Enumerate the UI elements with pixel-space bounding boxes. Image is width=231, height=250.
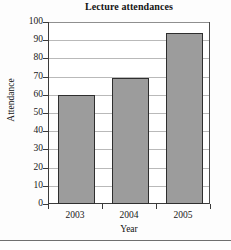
gridline (49, 22, 209, 23)
plot-area (48, 22, 210, 204)
bar-2005 (166, 33, 203, 204)
x-axis-tick-mark (210, 204, 211, 209)
bar-2003 (58, 95, 95, 204)
x-axis-title: Year (48, 224, 210, 234)
y-axis-tick-label: 100 (17, 17, 43, 27)
x-axis-tick-mark (156, 204, 157, 209)
y-axis-tick-label: 80 (17, 53, 43, 63)
x-axis-tick-mark (48, 204, 49, 209)
y-axis-tick-label: 10 (17, 181, 43, 191)
x-axis-tick-label: 2003 (52, 210, 98, 221)
y-axis-tick-label: 40 (17, 126, 43, 136)
x-axis-tick-label: 2004 (106, 210, 152, 221)
y-axis-tick-label: 50 (17, 108, 43, 118)
chart-figure: Lecture attendances Attendance 010203040… (0, 0, 231, 250)
x-axis-tick-label: 2005 (160, 210, 206, 221)
y-axis-tick-label: 90 (17, 35, 43, 45)
bar-2004 (112, 78, 149, 204)
y-axis-tick-label: 60 (17, 90, 43, 100)
y-axis-tick-label: 0 (17, 199, 43, 209)
bottom-divider (0, 240, 231, 241)
x-axis-tick-mark (102, 204, 103, 209)
y-axis-tick-label: 30 (17, 144, 43, 154)
y-axis-tick-label: 20 (17, 163, 43, 173)
y-axis-tick-label: 70 (17, 72, 43, 82)
